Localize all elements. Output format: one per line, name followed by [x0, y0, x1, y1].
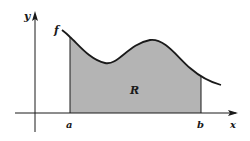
figure-canvas: y f R a b x [0, 0, 250, 141]
area-under-curve-figure: y f R a b x [0, 0, 250, 141]
region-label-r: R [129, 84, 139, 97]
region-r-fill [70, 37, 201, 113]
function-label-f: f [53, 24, 61, 37]
x-axis-label: x [229, 119, 237, 130]
y-axis-label: y [23, 10, 32, 23]
bound-label-b: b [197, 119, 204, 130]
bound-label-a: a [66, 119, 72, 130]
